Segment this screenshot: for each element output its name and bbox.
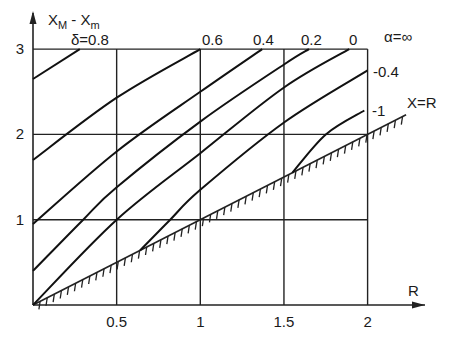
alpha-label: α=∞	[384, 28, 412, 45]
y-axis-arrow-icon	[30, 11, 37, 24]
curve-label-minus-1: -1	[372, 102, 385, 119]
curve-label-delta-0.8: δ=0.8	[71, 31, 109, 48]
curve-label-0.2: 0.2	[301, 31, 322, 48]
boundary-line-x-equals-r	[33, 115, 406, 310]
y-tick-label: 3	[16, 40, 24, 57]
x-tick-label: 0.5	[106, 313, 127, 330]
curve-label-0.4: 0.4	[253, 31, 274, 48]
x-tick-labels: 0.511.52	[106, 313, 372, 330]
curve-0.4	[33, 49, 262, 224]
curve-label-minus-0.4: -0.4	[373, 63, 399, 80]
curve-label-0: 0	[349, 31, 357, 48]
x-tick-label: 1.5	[274, 313, 295, 330]
x-tick-label: 2	[363, 313, 371, 330]
y-axis-label: XM - Xm	[48, 11, 100, 31]
axes	[30, 11, 426, 309]
svg-text:XM - Xm: XM - Xm	[48, 11, 100, 31]
y-tick-label: 2	[16, 125, 24, 142]
curve-0	[33, 49, 349, 305]
x-axis-label: R	[408, 282, 419, 299]
x-tick-label: 1	[196, 313, 204, 330]
curve-0.8	[33, 49, 80, 79]
y-tick-labels: 123	[16, 40, 24, 228]
curve-label-0.6: 0.6	[202, 31, 223, 48]
y-tick-label: 1	[16, 211, 24, 228]
boundary-label: X=R	[407, 94, 437, 111]
curve--0.4	[140, 70, 368, 250]
curve-0.2	[33, 49, 309, 271]
chart: 0.511.52 123 R XM - Xm δ=0.8 0.6 0.4 0.2…	[0, 0, 454, 343]
x-axis-arrow-icon	[412, 302, 425, 309]
grid-lines	[33, 49, 368, 305]
